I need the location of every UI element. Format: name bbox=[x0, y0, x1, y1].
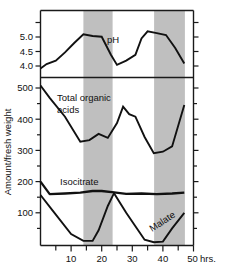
x-tick-label-50: 50 bbox=[187, 253, 198, 264]
figure-container: 5.0 4.5 4.0 500 400 300 200 100 10 20 30… bbox=[0, 0, 227, 268]
x-tick-label-10: 10 bbox=[66, 253, 77, 264]
y-ticks-amount-right bbox=[194, 88, 199, 228]
y-tick-label-ph-4_5: 4.5 bbox=[20, 46, 33, 57]
y-tick-label-100: 100 bbox=[17, 207, 33, 218]
series-label-total-organic-acids-line2: acids bbox=[57, 104, 79, 115]
y-tick-label-500: 500 bbox=[17, 82, 33, 93]
y-tick-label-ph-5_0: 5.0 bbox=[20, 31, 33, 42]
series-label-ph: pH bbox=[107, 34, 119, 45]
y-ticks-amount bbox=[36, 88, 41, 228]
x-axis-unit-label: hrs. bbox=[200, 253, 216, 264]
chart-canvas: 5.0 4.5 4.0 500 400 300 200 100 10 20 30… bbox=[0, 0, 227, 268]
x-tick-label-40: 40 bbox=[158, 253, 169, 264]
x-ticks bbox=[56, 246, 194, 252]
y-tick-label-ph-4_0: 4.0 bbox=[20, 60, 33, 71]
y-axis-title: Amount/fresh weight bbox=[2, 108, 13, 195]
y-tick-label-200: 200 bbox=[17, 176, 33, 187]
shaded-band-dark-1 bbox=[83, 10, 112, 245]
y-tick-label-400: 400 bbox=[17, 114, 33, 125]
x-tick-label-30: 30 bbox=[127, 253, 138, 264]
y-ticks-ph-right bbox=[194, 23, 199, 67]
series-label-isocitrate: Isocitrate bbox=[60, 176, 99, 187]
y-ticks-ph bbox=[36, 23, 41, 67]
series-label-total-organic-acids-line1: Total organic bbox=[57, 92, 111, 103]
x-tick-label-20: 20 bbox=[96, 253, 107, 264]
y-tick-label-300: 300 bbox=[17, 145, 33, 156]
